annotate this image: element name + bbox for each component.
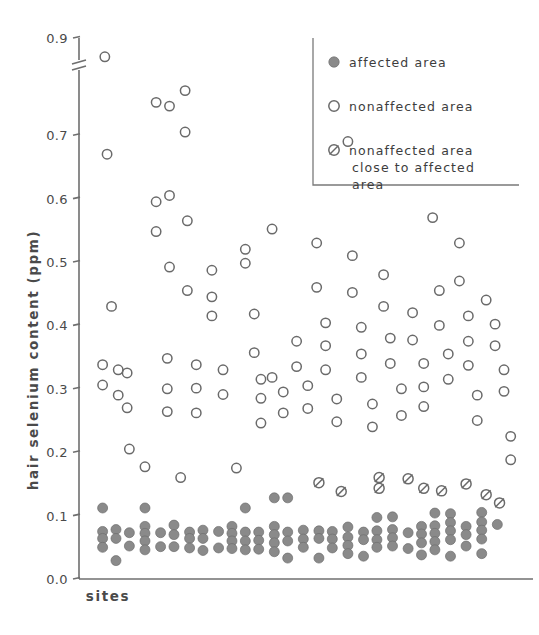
data-point-filled-circle bbox=[343, 522, 353, 532]
data-point-filled-circle bbox=[124, 541, 134, 551]
data-point-open-circle bbox=[357, 349, 366, 358]
data-point-slashed-circle bbox=[403, 474, 413, 484]
data-point-open-circle bbox=[379, 302, 388, 311]
legend-marker-open-circle bbox=[329, 101, 339, 111]
y-tick-label: 0.7 bbox=[46, 128, 68, 143]
data-point-open-circle bbox=[163, 354, 172, 363]
data-point-filled-circle bbox=[254, 535, 264, 545]
data-point-filled-circle bbox=[492, 519, 502, 529]
data-point-open-circle bbox=[192, 360, 201, 369]
data-point-open-circle bbox=[435, 286, 444, 295]
data-point-open-circle bbox=[163, 407, 172, 416]
data-point-filled-circle bbox=[269, 493, 279, 503]
data-point-filled-circle bbox=[140, 503, 150, 513]
data-point-open-circle bbox=[98, 360, 107, 369]
data-point-filled-circle bbox=[283, 493, 293, 503]
data-point-open-circle bbox=[151, 197, 160, 206]
data-point-filled-circle bbox=[372, 542, 382, 552]
data-point-filled-circle bbox=[240, 503, 250, 513]
data-point-open-circle bbox=[256, 418, 265, 427]
data-point-open-circle bbox=[464, 337, 473, 346]
legend-marker-filled-circle bbox=[329, 57, 339, 67]
data-point-open-circle bbox=[455, 276, 464, 285]
plot-canvas: 0.90.70.60.50.40.30.20.10.0 hair seleniu… bbox=[0, 0, 539, 635]
data-point-filled-circle bbox=[111, 533, 121, 543]
data-point-filled-circle bbox=[156, 528, 166, 538]
data-point-filled-circle bbox=[445, 509, 455, 519]
data-point-filled-circle bbox=[140, 545, 150, 555]
data-point-open-circle bbox=[428, 213, 437, 222]
data-point-open-circle bbox=[292, 337, 301, 346]
data-point-filled-circle bbox=[430, 508, 440, 518]
y-tick-label: 0.9 bbox=[46, 31, 68, 46]
data-point-filled-circle bbox=[169, 520, 179, 530]
data-point-open-circle bbox=[490, 319, 499, 328]
data-point-open-circle bbox=[506, 455, 515, 464]
data-point-open-circle bbox=[303, 404, 312, 413]
data-point-open-circle bbox=[464, 361, 473, 370]
data-point-open-circle bbox=[180, 127, 189, 136]
data-point-filled-circle bbox=[169, 542, 179, 552]
data-point-filled-circle bbox=[477, 525, 487, 535]
data-point-open-circle bbox=[250, 309, 259, 318]
data-point-open-circle bbox=[348, 288, 357, 297]
data-point-filled-circle bbox=[388, 541, 398, 551]
data-point-open-circle bbox=[192, 408, 201, 417]
data-point-open-circle bbox=[256, 394, 265, 403]
data-point-filled-circle bbox=[185, 533, 195, 543]
series-filled-circle bbox=[98, 493, 503, 566]
data-point-open-circle bbox=[332, 417, 341, 426]
data-point-open-circle bbox=[192, 383, 201, 392]
data-point-open-circle bbox=[419, 382, 428, 391]
data-point-open-circle bbox=[386, 333, 395, 342]
data-point-slashed-circle bbox=[336, 487, 346, 497]
data-point-filled-circle bbox=[98, 542, 108, 552]
series-open-circle bbox=[98, 52, 515, 482]
data-point-open-circle bbox=[100, 52, 109, 61]
data-point-open-circle bbox=[379, 270, 388, 279]
data-point-filled-circle bbox=[283, 553, 293, 563]
data-point-open-circle bbox=[481, 295, 490, 304]
y-tick-label: 0.0 bbox=[46, 572, 68, 587]
data-point-open-circle bbox=[419, 359, 428, 368]
data-point-open-circle bbox=[176, 473, 185, 482]
data-point-filled-circle bbox=[359, 551, 369, 561]
data-point-open-circle bbox=[332, 394, 341, 403]
data-point-filled-circle bbox=[445, 535, 455, 545]
data-point-slashed-circle bbox=[314, 478, 324, 488]
data-point-open-circle bbox=[357, 323, 366, 332]
data-point-filled-circle bbox=[214, 526, 224, 536]
data-point-open-circle bbox=[499, 387, 508, 396]
series-slashed-circle bbox=[314, 473, 505, 508]
y-tick-label: 0.3 bbox=[46, 382, 68, 397]
data-point-filled-circle bbox=[314, 553, 324, 563]
data-point-filled-circle bbox=[240, 545, 250, 555]
scatter-plot-figure: 0.90.70.60.50.40.30.20.10.0 hair seleniu… bbox=[0, 0, 539, 635]
data-point-filled-circle bbox=[477, 549, 487, 559]
y-axis-title: hair selenium content (ppm) bbox=[25, 230, 41, 491]
data-point-open-circle bbox=[232, 463, 241, 472]
data-point-open-circle bbox=[122, 403, 131, 412]
data-point-open-circle bbox=[163, 384, 172, 393]
data-point-open-circle bbox=[444, 349, 453, 358]
data-point-filled-circle bbox=[185, 543, 195, 553]
legend-label-affected-area: affected area bbox=[349, 55, 447, 70]
data-point-open-circle bbox=[321, 318, 330, 327]
data-point-filled-circle bbox=[140, 536, 150, 546]
data-point-filled-circle bbox=[445, 526, 455, 536]
data-point-filled-circle bbox=[343, 549, 353, 559]
data-point-open-circle bbox=[140, 462, 149, 471]
data-point-open-circle bbox=[256, 375, 265, 384]
data-point-filled-circle bbox=[327, 534, 337, 544]
data-point-filled-circle bbox=[417, 529, 427, 539]
axes-group bbox=[72, 38, 533, 579]
data-point-open-circle bbox=[151, 227, 160, 236]
data-point-open-circle bbox=[464, 311, 473, 320]
data-point-open-circle bbox=[473, 416, 482, 425]
data-point-open-circle bbox=[397, 384, 406, 393]
axis-break-mark-lower bbox=[72, 66, 86, 70]
data-point-open-circle bbox=[267, 224, 276, 233]
data-point-open-circle bbox=[151, 98, 160, 107]
data-point-filled-circle bbox=[298, 525, 308, 535]
data-point-filled-circle bbox=[461, 530, 471, 540]
